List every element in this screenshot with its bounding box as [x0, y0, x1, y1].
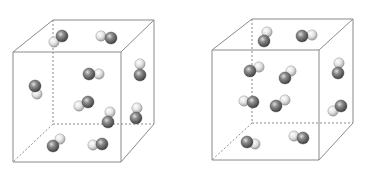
cube-edge: [319, 123, 353, 160]
cube-edge: [121, 124, 154, 162]
dark-atom: [270, 100, 282, 112]
dark-atom: [297, 132, 309, 144]
diatomic-molecule: [83, 68, 104, 80]
cube-edge: [319, 19, 353, 50]
light-atom: [96, 31, 106, 41]
diatomic-molecule: [130, 103, 142, 124]
diatomic-molecule: [296, 30, 317, 42]
hidden-edge: [13, 124, 53, 162]
diatomic-molecule: [241, 136, 260, 149]
dark-atom: [296, 30, 308, 42]
cube-edge: [212, 19, 252, 50]
light-atom: [334, 58, 344, 68]
dark-atom: [47, 140, 59, 152]
dark-atom: [56, 30, 68, 42]
diatomic-molecule: [102, 107, 115, 128]
light-atom: [132, 103, 142, 113]
dark-atom: [332, 67, 344, 79]
light-atom: [307, 30, 317, 40]
dark-atom: [258, 35, 270, 47]
diatomic-molecule: [29, 80, 42, 99]
dark-atom: [102, 116, 114, 128]
cube-edge: [121, 20, 154, 52]
dark-atom: [279, 72, 291, 84]
diatomic-molecule: [279, 66, 296, 84]
light-atom: [94, 69, 104, 79]
dark-atom: [130, 112, 142, 124]
diatomic-molecule: [74, 96, 94, 111]
cube-edge: [13, 20, 53, 52]
right-cube: [212, 19, 353, 160]
diatomic-molecule: [88, 138, 108, 150]
diatomic-molecule: [239, 96, 259, 108]
dark-atom: [96, 138, 108, 150]
dark-atom: [247, 96, 259, 108]
diatomic-molecule: [332, 58, 344, 79]
diatomic-molecule: [289, 131, 309, 144]
diatomic-molecule: [270, 95, 290, 112]
dark-atom: [335, 100, 347, 112]
dark-atom: [83, 68, 95, 80]
left-cube: [13, 20, 154, 162]
dark-atom: [82, 96, 94, 108]
light-atom: [135, 59, 145, 69]
diatomic-molecule: [49, 30, 68, 47]
dark-atom: [134, 69, 146, 81]
two-cubes-molecules-diagram: [0, 0, 374, 170]
dark-atom: [105, 32, 117, 44]
diatomic-molecule: [328, 100, 347, 116]
diatomic-molecule: [134, 59, 146, 81]
diatomic-molecule: [96, 31, 117, 44]
dark-atom: [241, 136, 253, 148]
figure-canvas: [0, 0, 374, 170]
diatomic-molecule: [47, 134, 65, 152]
light-atom: [105, 107, 115, 117]
diatomic-molecule: [244, 62, 264, 77]
diatomic-molecule: [258, 27, 272, 47]
dark-atom: [244, 65, 256, 77]
dark-atom: [29, 80, 41, 92]
